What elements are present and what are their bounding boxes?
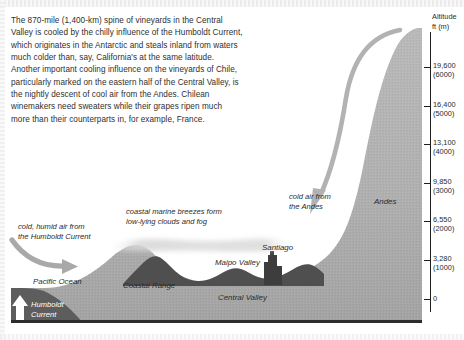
axis-title-line1: Altitude bbox=[432, 12, 457, 22]
tick-meters: (3000) bbox=[433, 186, 454, 195]
label-central-valley: Central Valley bbox=[218, 293, 267, 303]
axis-tick bbox=[424, 106, 431, 107]
axis-tick-label: 16,400 (5000) bbox=[433, 100, 456, 119]
label-coastal-breezes: coastal marine breezes form low-lying cl… bbox=[126, 207, 222, 228]
axis-title: Altitude ft (m) bbox=[432, 12, 457, 31]
axis-tick bbox=[424, 183, 431, 184]
axis-tick bbox=[424, 260, 431, 261]
label-line: Current bbox=[31, 310, 64, 320]
label-humboldt-air: cold, humid air from the Humboldt Curren… bbox=[18, 222, 91, 243]
tick-meters: (6000) bbox=[433, 70, 456, 79]
axis-title-line2: ft (m) bbox=[432, 22, 457, 32]
tick-meters: (4000) bbox=[433, 147, 456, 156]
axis-line bbox=[430, 32, 431, 312]
label-line: the Andes bbox=[289, 202, 331, 212]
cross-section-illustration bbox=[0, 0, 464, 340]
axis-tick bbox=[424, 67, 431, 68]
axis-tick bbox=[424, 221, 431, 222]
label-humboldt-current: Humboldt Current bbox=[31, 300, 64, 321]
axis-tick-label: 9,850 (3000) bbox=[433, 177, 454, 196]
label-line: low-lying clouds and fog bbox=[126, 217, 222, 227]
tick-feet: 6,550 bbox=[433, 215, 454, 224]
tick-feet: 13,100 bbox=[433, 138, 456, 147]
tick-feet: 0 bbox=[433, 294, 437, 303]
axis-tick-label: 3,280 (1000) bbox=[433, 254, 454, 273]
label-coastal-range: Coastal Range bbox=[123, 281, 175, 291]
label-line: coastal marine breezes form bbox=[126, 207, 222, 217]
label-line: cold, humid air from bbox=[18, 222, 91, 232]
humboldt-air-arrow-icon bbox=[12, 240, 78, 274]
santiago-skyline bbox=[264, 251, 282, 285]
axis-tick bbox=[424, 144, 431, 145]
label-maipo-valley: Maipo Valley bbox=[215, 258, 260, 268]
axis-tick-label: 19,600 (6000) bbox=[433, 61, 456, 80]
tick-feet: 19,600 bbox=[433, 61, 456, 70]
section-baseline bbox=[11, 320, 422, 323]
tick-meters: (5000) bbox=[433, 109, 456, 118]
axis-tick-label: 6,550 (2000) bbox=[433, 215, 454, 234]
label-andes-air: cold air from the Andes bbox=[289, 192, 331, 213]
axis-tick-label: 13,100 (4000) bbox=[433, 138, 456, 157]
tick-meters: (1000) bbox=[433, 263, 454, 272]
label-line: the Humboldt Current bbox=[18, 232, 91, 242]
axis-tick-label: 0 bbox=[433, 294, 437, 303]
label-line: cold air from bbox=[289, 192, 331, 202]
tick-feet: 3,280 bbox=[433, 254, 454, 263]
tick-feet: 9,850 bbox=[433, 177, 454, 186]
tick-feet: 16,400 bbox=[433, 100, 456, 109]
label-santiago: Santiago bbox=[262, 243, 293, 253]
label-andes: Andes bbox=[374, 197, 396, 207]
tick-meters: (2000) bbox=[433, 224, 454, 233]
label-line: Humboldt bbox=[31, 300, 64, 310]
label-pacific-ocean: Pacific Ocean bbox=[33, 277, 82, 287]
axis-tick bbox=[424, 299, 431, 300]
diagram-page: The 870-mile (1,400-km) spine of vineyar… bbox=[0, 0, 464, 340]
